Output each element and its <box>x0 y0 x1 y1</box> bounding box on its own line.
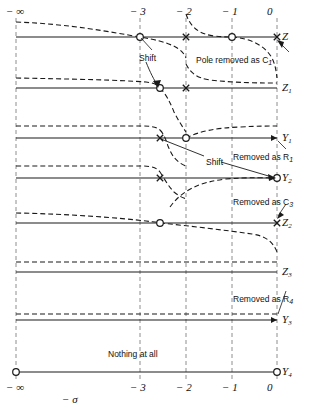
x-tick-bottom-−3: − 3 <box>130 382 146 393</box>
annotation-pole-removed-c1: Pole removed as C1 <box>196 56 272 66</box>
curve-y1-dip <box>160 130 186 166</box>
leader-shift-top-a <box>141 38 152 50</box>
x-tick-top-0: 0 <box>267 6 273 17</box>
axis-label-Y1: Y1 <box>282 132 292 145</box>
x-tick-top-−1: − 1 <box>222 6 238 17</box>
x-tick-top-−3: − 3 <box>130 6 146 17</box>
annotation-shift-middle: Shift <box>206 158 223 167</box>
x-tick-bottom-−1: − 1 <box>222 382 238 393</box>
zero-marker <box>157 220 164 227</box>
curve-y2-left <box>16 166 160 172</box>
arrow-marker <box>271 317 277 323</box>
x-tick-top-−2: − 2 <box>176 6 192 17</box>
axis-label-Z2: Z2 <box>282 217 292 230</box>
x-tick-top-−∞: − ∞ <box>6 6 24 17</box>
figure-canvas: − ∞− 3− 2− 10− ∞− 3− 2− 10− σZZ1Y1Y2Z2Z3… <box>0 0 330 410</box>
annotation-nothing-at-all: Nothing at all <box>108 350 158 359</box>
annotation-removed-r4: Removed as R4 <box>233 295 293 305</box>
arrow-marker <box>271 135 277 141</box>
curve-z1-left <box>16 78 160 88</box>
curve-z2-right <box>160 223 277 252</box>
curve-z2-left <box>16 213 160 223</box>
axis-label-Y4: Y4 <box>282 366 292 379</box>
zero-marker <box>183 135 190 142</box>
x-axis-title: − σ <box>62 394 78 405</box>
x-tick-bottom-−2: − 2 <box>176 382 192 393</box>
annotation-removed-r1: Removed as R1 <box>233 153 293 163</box>
annotation-shift-top: Shift <box>139 54 156 63</box>
curve-z-mid <box>186 14 232 37</box>
zero-marker <box>229 34 236 41</box>
axis-label-Z3: Z3 <box>282 266 292 279</box>
axis-label-Y3: Y3 <box>282 314 292 327</box>
annotation-removed-c3: Removed as C3 <box>233 198 293 208</box>
axis-label-Z1: Z1 <box>282 82 292 95</box>
curve-z-left <box>16 22 186 58</box>
x-tick-bottom-−∞: − ∞ <box>6 382 24 393</box>
leader-shift-mid-b <box>221 162 272 177</box>
curve-z1-right <box>186 64 277 83</box>
axis-label-Y2: Y2 <box>282 172 292 185</box>
curve-y1-left <box>16 126 160 130</box>
curve-z1-drop <box>160 88 186 132</box>
axis-label-Z: Z <box>282 31 288 42</box>
zero-marker <box>274 369 281 376</box>
x-tick-bottom-0: 0 <box>267 382 273 393</box>
zero-marker <box>13 369 20 376</box>
leader-shift-mid-a <box>161 139 204 156</box>
